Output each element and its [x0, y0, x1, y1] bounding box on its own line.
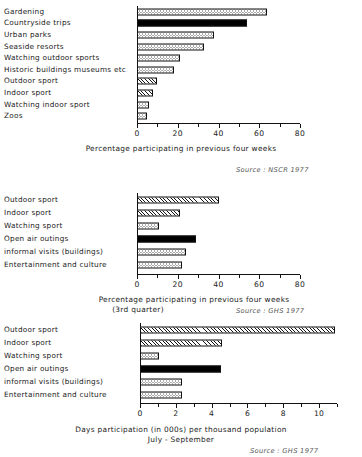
bar-row: informal visits (buildings) [0, 375, 362, 388]
x-tick-minor [198, 124, 199, 127]
x-tick-label: 80 [295, 129, 305, 138]
y-axis-spine [137, 193, 138, 274]
bar [137, 78, 157, 85]
bar-row: Outdoor sport [0, 193, 362, 206]
bar-row: Watching outdoor sports [0, 52, 362, 64]
x-tick-major [178, 275, 179, 279]
x-tick-major [219, 124, 220, 128]
category-label: Outdoor sport [4, 78, 58, 85]
x-tick-minor [280, 275, 281, 278]
bar [140, 352, 159, 359]
x-tick-major [247, 404, 248, 408]
x-axis-caption: Percentage participating in previous fou… [0, 144, 362, 153]
x-tick-label: 4 [209, 409, 214, 418]
x-tick-major [300, 275, 301, 279]
bar-row: Seaside resorts [0, 41, 362, 53]
x-tick-major [283, 404, 284, 408]
bar [140, 339, 222, 346]
category-label: Open air outings [4, 235, 69, 242]
x-axis: 020406080 [0, 274, 362, 294]
x-tick-label: 60 [254, 280, 264, 289]
y-axis-spine [137, 6, 138, 123]
x-tick-label: 20 [173, 129, 183, 138]
bar-row: Outdoor sport [0, 323, 362, 336]
x-tick-major [259, 124, 260, 128]
category-label: Countryside trips [4, 20, 71, 27]
x-tick-label: 0 [137, 409, 142, 418]
chart-panel-days-participation-ghs: Outdoor sportIndoor sportWatching sportO… [0, 315, 362, 457]
bar-row: Entertainment and culture [0, 258, 362, 271]
bar-row: Watching sport [0, 219, 362, 232]
x-tick-label: 0 [134, 129, 139, 138]
category-label: Entertainment and culture [4, 391, 107, 398]
x-axis-caption: Percentage participating in previous fou… [0, 295, 362, 304]
chart-panel-participation-ghs: Outdoor sportIndoor sportWatching sportO… [0, 185, 362, 315]
category-label: Watching sport [4, 222, 63, 229]
x-axis-caption-line2: July - September [0, 435, 362, 444]
x-tick-minor [230, 404, 231, 407]
bar [137, 66, 174, 73]
x-tick-minor [239, 124, 240, 127]
bar-row: Indoor sport [0, 336, 362, 349]
x-axis-caption-line2: (3rd quarter) [0, 305, 362, 314]
category-label: Watching indoor sport [4, 101, 90, 108]
category-label: Watching outdoor sports [4, 54, 99, 61]
x-tick-label: 60 [254, 129, 264, 138]
x-tick-label: 10 [314, 409, 324, 418]
x-tick-label: 8 [281, 409, 286, 418]
bar [137, 8, 267, 15]
x-axis: 0246810 [0, 403, 362, 423]
x-tick-minor [265, 404, 266, 407]
bar [137, 43, 204, 50]
x-tick-major [176, 404, 177, 408]
x-tick-label: 20 [173, 280, 183, 289]
bar-row: informal visits (buildings) [0, 245, 362, 258]
category-label: Seaside resorts [4, 43, 64, 50]
x-tick-label: 40 [213, 129, 223, 138]
x-tick-minor [280, 124, 281, 127]
x-tick-minor [158, 404, 159, 407]
source-note: Source : GHS 1977 [236, 307, 304, 315]
x-tick-major [212, 404, 213, 408]
bar [137, 55, 180, 62]
x-tick-major [259, 275, 260, 279]
x-tick-minor [301, 404, 302, 407]
bar-row: Urban parks [0, 29, 362, 41]
x-tick-minor [239, 275, 240, 278]
chart-panel-participation-nscr: GardeningCountryside tripsUrban parksSea… [0, 0, 362, 185]
category-label: Historic buildings museums etc [4, 66, 126, 73]
x-tick-minor [198, 275, 199, 278]
bar-row: Open air outings [0, 232, 362, 245]
category-label: Indoor sport [4, 339, 51, 346]
category-label: Gardening [4, 8, 44, 15]
category-label: Watching sport [4, 352, 63, 359]
plot-area: GardeningCountryside tripsUrban parksSea… [0, 6, 362, 122]
bar-row: Historic buildings museums etc [0, 64, 362, 76]
x-tick-major [137, 275, 138, 279]
y-axis-spine [140, 323, 141, 403]
x-axis: 020406080 [0, 123, 362, 143]
x-tick-minor [157, 124, 158, 127]
x-axis-line [140, 403, 337, 404]
x-tick-label: 80 [295, 280, 305, 289]
category-label: Indoor sport [4, 89, 51, 96]
plot-area: Outdoor sportIndoor sportWatching sportO… [0, 323, 362, 401]
category-label: Zoos [4, 112, 23, 119]
category-label: Open air outings [4, 365, 69, 372]
bar [137, 235, 196, 242]
bar [137, 113, 147, 120]
x-tick-major [137, 124, 138, 128]
bar-row: Open air outings [0, 362, 362, 375]
category-label: informal visits (buildings) [4, 378, 103, 385]
category-label: Urban parks [4, 31, 51, 38]
source-note: Source : GHS 1977 [250, 447, 318, 455]
bar [140, 378, 182, 385]
bar [137, 31, 214, 38]
x-axis-caption: Days participation (in 000s) per thousan… [0, 425, 362, 434]
bar-row: Watching sport [0, 349, 362, 362]
bar [137, 222, 159, 229]
x-tick-major [140, 404, 141, 408]
bar-row: Gardening [0, 6, 362, 18]
bar-row: Entertainment and culture [0, 388, 362, 401]
bar-row: Outdoor sport [0, 76, 362, 88]
